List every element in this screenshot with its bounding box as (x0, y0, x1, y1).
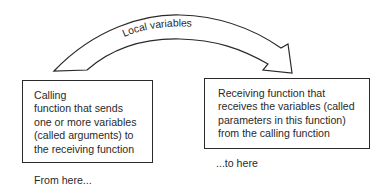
box-text-line: the receiving function (34, 143, 152, 156)
box-text-line: function that sends (34, 102, 152, 115)
box-text-line: from the calling function (218, 127, 369, 140)
box-text-line: Calling (34, 89, 152, 102)
box-text-line: one or more variables (34, 116, 152, 129)
calling-function-box: Calling function that sends one or more … (22, 80, 153, 163)
to-here-caption: ...to here (216, 157, 258, 169)
from-here-caption: From here... (34, 174, 92, 186)
box-text-line: (called arguments) to (34, 129, 152, 142)
box-text-line: Receiving function that (218, 87, 369, 100)
box-text-line: parameters in this function) (218, 114, 369, 127)
receiving-function-box: Receiving function that receives the var… (204, 78, 370, 149)
box-text-line: receives the variables (called (218, 100, 369, 113)
